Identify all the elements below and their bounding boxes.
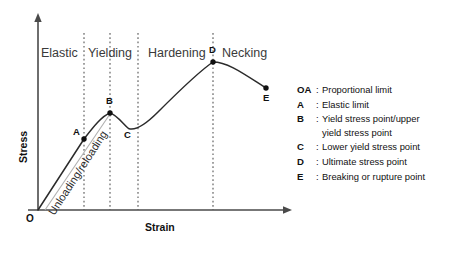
y-axis-arrowhead	[34, 13, 41, 22]
legend-item-a: A : Elastic limit	[297, 99, 452, 110]
point-label-e: E	[263, 93, 269, 103]
legend-item-e: E : Breaking or rupture point	[297, 171, 452, 182]
origin-label: O	[26, 214, 34, 224]
legend-key-e: E	[297, 171, 316, 182]
point-marker-b	[107, 110, 112, 115]
point-marker-a	[81, 136, 86, 141]
point-label-d: D	[209, 45, 216, 55]
region-label-hardening: Hardening	[148, 47, 206, 60]
stress-strain-diagram: Elastic Yielding Hardening Necking A B C…	[0, 0, 454, 260]
legend-desc-b-line2: yield stress point	[297, 127, 452, 138]
legend-desc-b: Yield stress point/upper	[322, 113, 452, 124]
legend-item-b: B : Yield stress point/upper	[297, 113, 452, 124]
legend: OA : Proportional limit A : Elastic limi…	[297, 84, 452, 185]
legend-item-c: C : Lower yield stress point	[297, 141, 452, 152]
legend-key-c: C	[297, 141, 316, 152]
legend-item-d: D : Ultimate stress point	[297, 156, 452, 167]
legend-desc-oa: Proportional limit	[322, 84, 452, 95]
point-label-b: B	[106, 96, 113, 106]
legend-key-oa: OA	[297, 84, 316, 95]
x-axis-title: Strain	[145, 222, 175, 233]
point-label-a: A	[73, 127, 80, 137]
legend-item-oa: OA : Proportional limit	[297, 84, 452, 95]
x-axis-arrowhead	[283, 206, 292, 213]
point-marker-e	[263, 85, 268, 90]
point-marker-d	[210, 59, 215, 64]
legend-desc-a: Elastic limit	[322, 99, 452, 110]
legend-key-a: A	[297, 99, 316, 110]
point-label-c: C	[124, 130, 131, 140]
legend-desc-c: Lower yield stress point	[322, 141, 452, 152]
legend-desc-e: Breaking or rupture point	[322, 171, 452, 182]
region-label-necking: Necking	[222, 47, 267, 60]
legend-desc-d: Ultimate stress point	[322, 156, 452, 167]
y-axis-title: Stress	[18, 131, 29, 163]
legend-key-b: B	[297, 113, 316, 124]
legend-key-d: D	[297, 156, 316, 167]
region-label-elastic: Elastic	[41, 47, 78, 60]
region-label-yielding: Yielding	[88, 47, 132, 60]
